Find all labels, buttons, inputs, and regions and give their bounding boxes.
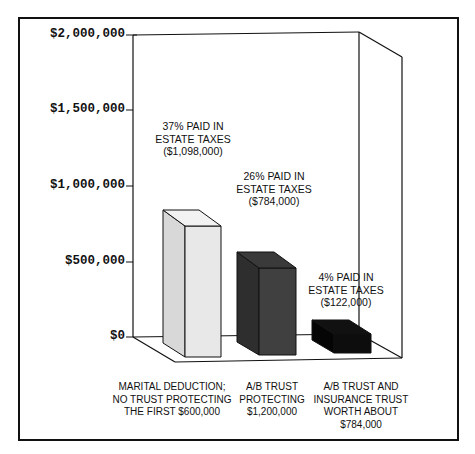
- annotation-line: ($122,000): [300, 296, 392, 309]
- category-line: PROTECTING: [234, 394, 310, 407]
- y-tick-label: $2,000,000: [5, 27, 125, 41]
- category-label-1: MARITAL DEDUCTION; NO TRUST PROTECTING T…: [103, 381, 241, 419]
- category-line: $784,000: [306, 419, 416, 432]
- category-line: WORTH ABOUT: [306, 406, 416, 419]
- category-label-2: A/B TRUST PROTECTING $1,200,000: [234, 381, 310, 419]
- category-line: A/B TRUST: [234, 381, 310, 394]
- annotation-line: 26% PAID IN: [228, 170, 320, 183]
- annotation-line: ESTATE TAXES: [228, 183, 320, 196]
- annotation-bar2: 26% PAID IN ESTATE TAXES ($784,000): [228, 170, 320, 208]
- annotation-line: ESTATE TAXES: [300, 284, 392, 297]
- annotation-bar3: 4% PAID IN ESTATE TAXES ($122,000): [300, 271, 392, 309]
- category-line: INSURANCE TRUST: [306, 394, 416, 407]
- annotation-line: 4% PAID IN: [300, 271, 392, 284]
- annotation-line: ($784,000): [228, 195, 320, 208]
- y-tick-label: $0: [5, 329, 125, 343]
- annotation-line: ESTATE TAXES: [145, 133, 241, 146]
- category-line: MARITAL DEDUCTION;: [103, 381, 241, 394]
- y-tick-label: $500,000: [5, 254, 125, 268]
- bar-ab-insurance-trust: [312, 320, 371, 353]
- y-tick-label: $1,000,000: [5, 178, 125, 192]
- y-axis-ticks: [126, 35, 137, 337]
- y-tick-label: $1,500,000: [5, 102, 125, 116]
- category-line: $1,200,000: [234, 406, 310, 419]
- annotation-bar1: 37% PAID IN ESTATE TAXES ($1,098,000): [145, 120, 241, 158]
- category-label-3: A/B TRUST AND INSURANCE TRUST WORTH ABOU…: [306, 381, 416, 431]
- category-line: A/B TRUST AND: [306, 381, 416, 394]
- bar-marital-deduction: [163, 210, 221, 357]
- category-line: NO TRUST PROTECTING: [103, 394, 241, 407]
- bar-ab-trust: [237, 252, 296, 355]
- category-line: THE FIRST $600,000: [103, 406, 241, 419]
- annotation-line: ($1,098,000): [145, 145, 241, 158]
- annotation-line: 37% PAID IN: [145, 120, 241, 133]
